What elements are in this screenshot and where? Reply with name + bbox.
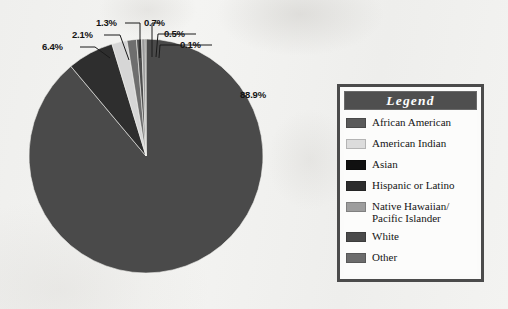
legend-item-label: Native Hawaiian/ Pacific Islander: [372, 198, 449, 224]
legend-item-label: White: [372, 228, 399, 243]
legend-item-label: Asian: [372, 156, 398, 171]
legend-item-label: African American: [372, 114, 451, 129]
legend-box: Legend African AmericanAmerican IndianAs…: [337, 84, 484, 282]
pie-percent-label: 0.5%: [164, 28, 185, 39]
legend-color-swatch: [346, 139, 366, 149]
legend-color-swatch: [346, 253, 366, 263]
pie-percent-label: 88.9%: [240, 89, 266, 100]
legend-item[interactable]: American Indian: [346, 135, 477, 156]
pie-percent-label: 0.7%: [144, 17, 165, 28]
legend-color-swatch: [346, 118, 366, 128]
pie-percent-label: 6.4%: [42, 41, 63, 52]
legend-item[interactable]: Native Hawaiian/ Pacific Islander: [346, 198, 477, 228]
legend-item[interactable]: Asian: [346, 156, 477, 177]
legend-item-label: American Indian: [372, 135, 446, 150]
legend-item[interactable]: Other: [346, 249, 477, 270]
pie-chart-figure: 6.4%2.1%1.3%0.7%0.5%0.1%88.9% Legend Afr…: [0, 0, 508, 309]
legend-color-swatch: [346, 202, 366, 212]
legend-item-list: African AmericanAmerican IndianAsianHisp…: [344, 114, 477, 270]
legend-item[interactable]: Hispanic or Latino: [346, 177, 477, 198]
legend-title-bar: Legend: [344, 91, 477, 110]
pie-percent-label: 1.3%: [96, 17, 117, 28]
legend-item[interactable]: White: [346, 228, 477, 249]
legend-title: Legend: [386, 93, 434, 109]
legend-color-swatch: [346, 232, 366, 242]
pie-percent-label: 2.1%: [72, 29, 93, 40]
legend-color-swatch: [346, 160, 366, 170]
legend-item-label: Hispanic or Latino: [372, 177, 454, 192]
legend-color-swatch: [346, 181, 366, 191]
legend-inner: Legend African AmericanAmerican IndianAs…: [344, 91, 477, 275]
legend-item-label: Other: [372, 249, 397, 264]
legend-item[interactable]: African American: [346, 114, 477, 135]
pie-chart-area: 6.4%2.1%1.3%0.7%0.5%0.1%88.9%: [0, 0, 330, 309]
pie-slice-group: [29, 39, 263, 273]
pie-percent-label: 0.1%: [180, 39, 201, 50]
